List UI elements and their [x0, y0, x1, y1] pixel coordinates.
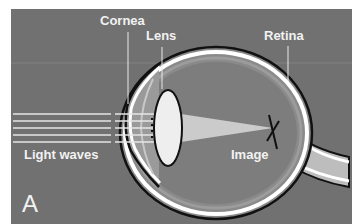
eye-diagram-svg: Cornea Lens Retina Light waves Image A — [11, 9, 352, 224]
label-retina: Retina — [264, 28, 305, 43]
label-light-waves: Light waves — [24, 147, 98, 162]
eye-diagram-panel: Cornea Lens Retina Light waves Image A — [11, 9, 352, 224]
panel-letter: A — [22, 190, 38, 217]
label-image: Image — [231, 147, 269, 162]
label-cornea: Cornea — [100, 13, 146, 28]
label-lens: Lens — [146, 28, 176, 43]
